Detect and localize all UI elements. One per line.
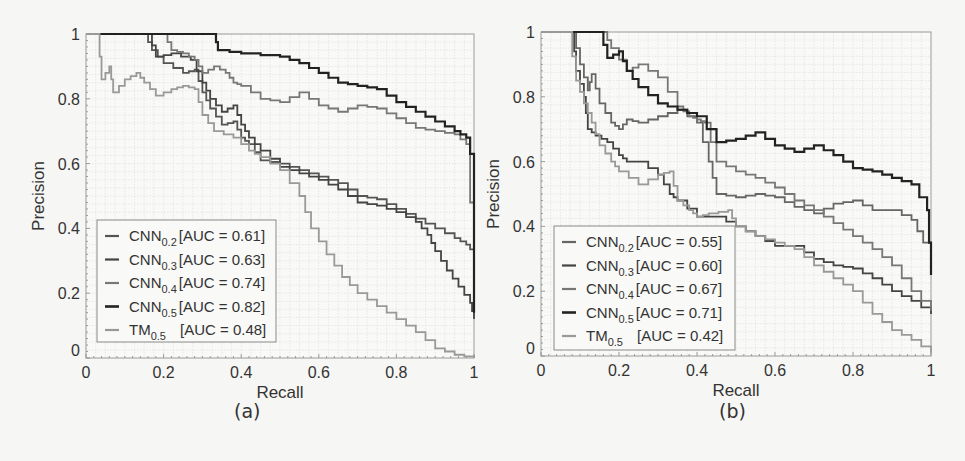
- pr-curve-chart-b: 00.20.40.60.8100.20.40.60.81RecallPrecis…: [482, 0, 965, 461]
- pr-curve-chart-a: 00.20.40.60.8100.20.40.60.81RecallPrecis…: [0, 0, 482, 461]
- y-tick-label: 0.8: [58, 91, 80, 108]
- y-tick-label: 0.8: [513, 89, 535, 106]
- chart-panel-b: 00.20.40.60.8100.20.40.60.81RecallPrecis…: [482, 0, 965, 461]
- y-tick-label: 0.2: [58, 285, 80, 302]
- y-tick-label: 1: [71, 26, 80, 43]
- y-tick-label: 0: [71, 342, 80, 359]
- y-tick-label: 0.2: [513, 283, 535, 300]
- x-tick-label: 0: [82, 364, 91, 381]
- x-tick-label: 0.2: [152, 364, 174, 381]
- y-axis-label: Precision: [484, 159, 503, 229]
- x-tick-label: 1: [470, 364, 479, 381]
- legend: CNN0.2[AUC = 0.55]CNN0.3[AUC = 0.60]CNN0…: [554, 226, 735, 350]
- x-tick-label: 0.8: [385, 364, 407, 381]
- y-tick-label: 0.4: [513, 218, 535, 235]
- caption-b: (b): [719, 400, 746, 422]
- x-tick-label: 0.8: [842, 362, 864, 379]
- caption-a: (a): [234, 400, 260, 422]
- x-tick-label: 0: [537, 362, 546, 379]
- x-tick-label: 1: [927, 362, 936, 379]
- x-tick-label: 0.6: [764, 362, 786, 379]
- x-axis-label: Recall: [256, 383, 303, 402]
- x-tick-label: 0.4: [686, 362, 708, 379]
- y-axis-label: Precision: [29, 161, 48, 231]
- x-tick-label: 0.4: [230, 364, 252, 381]
- y-tick-label: 0: [526, 340, 535, 357]
- legend: CNN0.2[AUC = 0.61]CNN0.3[AUC = 0.63]CNN0…: [97, 220, 276, 342]
- chart-panel-a: 00.20.40.60.8100.20.40.60.81RecallPrecis…: [0, 0, 482, 461]
- y-tick-label: 1: [526, 24, 535, 41]
- x-tick-label: 0.6: [308, 364, 330, 381]
- x-axis-label: Recall: [712, 381, 759, 400]
- y-tick-label: 0.6: [513, 154, 535, 171]
- x-tick-label: 0.2: [608, 362, 630, 379]
- y-tick-label: 0.6: [58, 156, 80, 173]
- y-tick-label: 0.4: [58, 220, 80, 237]
